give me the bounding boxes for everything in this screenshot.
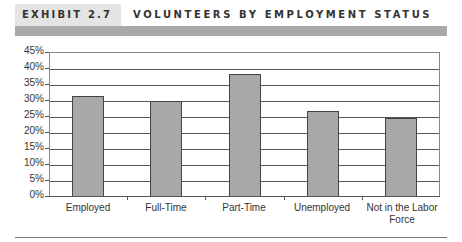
x-label-full-time: Full-Time	[127, 202, 205, 214]
y-tick-label: 25%	[4, 109, 44, 120]
x-label-unemployed: Unemployed	[283, 202, 361, 214]
bar-full-time	[150, 101, 182, 196]
x-label-employed: Employed	[49, 202, 127, 214]
bar-unemployed	[307, 111, 339, 196]
y-tick-label: 20%	[4, 125, 44, 136]
y-tick-label: 10%	[4, 157, 44, 168]
gridline	[50, 69, 439, 70]
y-tick-label: 0%	[4, 189, 44, 200]
bar-part-time	[229, 74, 261, 196]
y-tick-label: 45%	[4, 45, 44, 56]
x-label-line-2: Force	[389, 214, 415, 225]
y-tick-label: 30%	[4, 93, 44, 104]
x-label-part-time: Part-Time	[205, 202, 283, 214]
x-tick-mark	[284, 196, 285, 200]
x-axis-line	[49, 196, 440, 197]
x-tick-mark	[205, 196, 206, 200]
y-tick-label: 40%	[4, 61, 44, 72]
bar-not-in-the-labor-force	[385, 118, 417, 196]
x-label-line-1: Not in the Labor	[366, 202, 437, 213]
x-label-not-in-labor-force: Not in the LaborForce	[361, 202, 443, 226]
y-tick-label: 35%	[4, 77, 44, 88]
y-tick-label: 15%	[4, 141, 44, 152]
x-tick-mark	[362, 196, 363, 200]
chart-title: VOLUNTEERS BY EMPLOYMENT STATUS	[133, 9, 432, 20]
exhibit-label: EXHIBIT 2.7	[22, 9, 112, 20]
y-tick-label: 5%	[4, 173, 44, 184]
x-tick-mark	[127, 196, 128, 200]
header-band	[15, 26, 447, 36]
bottom-rule	[15, 237, 447, 238]
bar-employed	[72, 96, 104, 196]
